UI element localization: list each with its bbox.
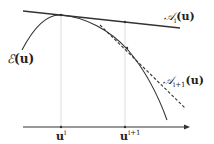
tick-ui bbox=[60, 126, 62, 128]
tangent-i1-symbol: 𝒜 bbox=[163, 74, 173, 87]
tangent-i1-label: 𝒜i+1(u) bbox=[163, 74, 204, 89]
tick-ui1 bbox=[124, 126, 126, 128]
tick-label-ui1-sup: i+1 bbox=[128, 129, 141, 137]
tangent-i1-arg: (u) bbox=[186, 74, 204, 87]
tick-label-ui1-base: u bbox=[120, 130, 128, 143]
energy-curve-label: ℰ(u) bbox=[7, 52, 34, 66]
point-ui bbox=[60, 14, 62, 16]
tangent-i-label: 𝒜i(u) bbox=[164, 10, 195, 25]
tick-label-ui-base: u bbox=[56, 130, 64, 143]
tangent-i1-sub: i+1 bbox=[173, 81, 186, 89]
energy-curve bbox=[22, 15, 167, 120]
tick-label-ui: ui bbox=[56, 129, 66, 143]
point-ui1 bbox=[126, 47, 128, 49]
tick-label-ui1: ui+1 bbox=[120, 129, 141, 143]
energy-arg: (u) bbox=[14, 52, 34, 66]
energy-symbol: ℰ bbox=[7, 52, 14, 66]
point-ui1-upper bbox=[124, 21, 126, 23]
tangent-line-i1 bbox=[100, 25, 185, 108]
tangent-i-symbol: 𝒜 bbox=[164, 10, 174, 23]
x-axis-arrow-icon bbox=[184, 125, 190, 130]
tangent-i-arg: (u) bbox=[176, 10, 194, 23]
tick-label-ui-sup: i bbox=[64, 129, 66, 137]
